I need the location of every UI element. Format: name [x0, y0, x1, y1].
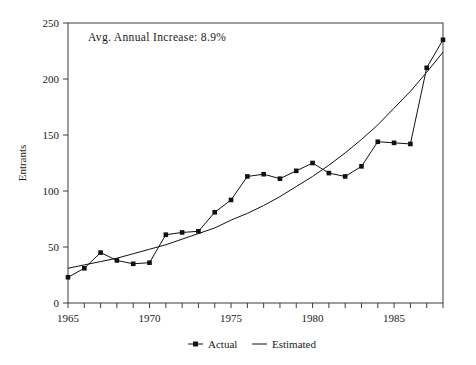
y-tick-label: 150: [43, 129, 60, 141]
data-point-marker: [147, 260, 152, 265]
legend-glyph-actual-marker: [193, 342, 198, 347]
data-point-marker: [392, 141, 397, 146]
data-point-marker: [359, 164, 364, 169]
x-tick-label: 1965: [57, 312, 80, 324]
plot-frame: [68, 23, 443, 303]
data-point-marker: [261, 172, 266, 177]
y-tick-label: 250: [43, 17, 60, 29]
data-point-marker: [375, 139, 380, 144]
data-point-marker: [229, 198, 234, 203]
data-point-marker: [164, 232, 169, 237]
y-axis-ticks: [63, 23, 68, 303]
data-point-marker: [343, 174, 348, 179]
data-point-marker: [245, 174, 250, 179]
chart-container: 050100150200250 19651970197519801985 Ent…: [0, 0, 476, 365]
y-axis-tick-labels: 050100150200250: [43, 17, 60, 309]
y-tick-label: 0: [54, 297, 60, 309]
y-tick-label: 200: [43, 73, 60, 85]
series-line-actual: [68, 40, 443, 277]
legend-label-estimated: Estimated: [272, 338, 316, 350]
y-tick-label: 50: [48, 241, 60, 253]
x-tick-label: 1980: [302, 312, 325, 324]
series-markers-actual: [66, 38, 446, 280]
y-axis-title: Entrants: [16, 145, 28, 182]
data-point-marker: [424, 66, 429, 71]
data-point-marker: [82, 266, 87, 271]
data-point-marker: [196, 229, 201, 234]
x-axis-tick-labels: 19651970197519801985: [57, 312, 406, 324]
data-point-marker: [278, 176, 283, 181]
data-point-marker: [441, 38, 446, 43]
y-tick-label: 100: [43, 185, 60, 197]
data-point-marker: [408, 142, 413, 147]
entrants-line-chart: 050100150200250 19651970197519801985 Ent…: [0, 0, 476, 365]
annotation-avg-annual-increase: Avg. Annual Increase: 8.9%: [88, 31, 226, 44]
x-axis-ticks: [68, 303, 443, 308]
data-point-marker: [180, 230, 185, 235]
chart-legend: Actual Estimated: [188, 338, 316, 350]
data-point-marker: [131, 262, 136, 267]
x-tick-label: 1985: [383, 312, 406, 324]
legend-label-actual: Actual: [208, 338, 237, 350]
data-point-marker: [66, 275, 71, 280]
data-point-marker: [310, 161, 315, 166]
series-line-estimated: [68, 52, 443, 268]
data-point-marker: [98, 250, 103, 255]
data-point-marker: [294, 169, 299, 174]
data-point-marker: [212, 210, 217, 215]
x-tick-label: 1975: [220, 312, 243, 324]
data-point-marker: [115, 258, 120, 263]
x-tick-label: 1970: [139, 312, 162, 324]
data-point-marker: [327, 171, 332, 176]
